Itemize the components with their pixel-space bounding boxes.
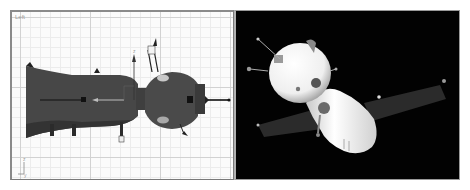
perspective-viewport[interactable] (234, 10, 460, 180)
axis-tripod-up-label: z (23, 156, 26, 162)
spacecraft-model-left-view[interactable] (12, 12, 234, 180)
axis-tripod-side-label: y (24, 172, 27, 178)
gizmo-axis-label: z (133, 48, 136, 54)
spacecraft-model-perspective-view[interactable] (236, 11, 460, 180)
left-viewport[interactable]: Left (10, 10, 234, 180)
